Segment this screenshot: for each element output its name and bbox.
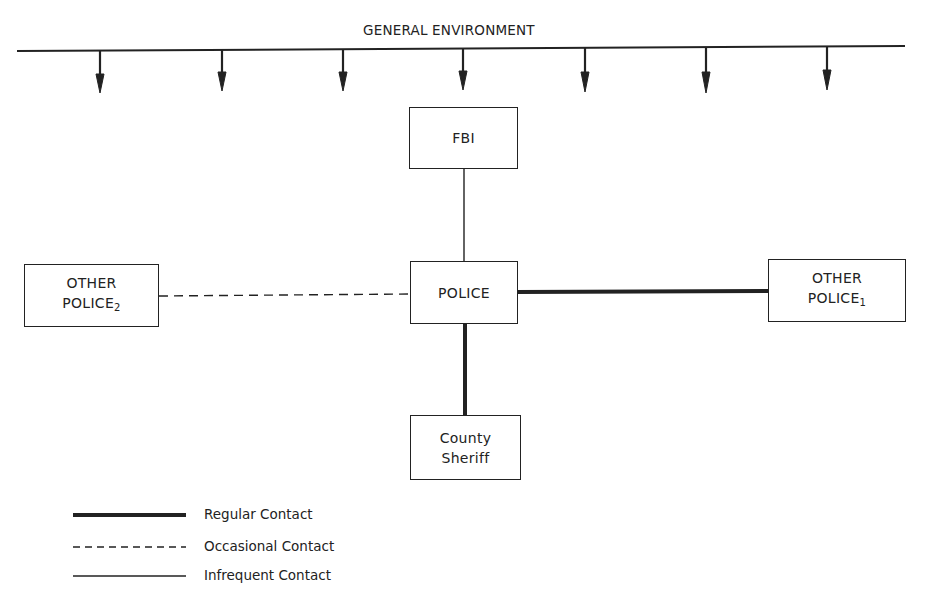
node-county-sheriff: County Sheriff [410,415,521,480]
node-label-line1: OTHER [66,273,116,293]
arrow-down-icon [459,49,467,90]
node-police-label: POLICE [438,283,490,303]
arrow-down-icon [96,51,104,93]
node-fbi: FBI [409,107,518,169]
legend-infrequent-label: Infrequent Contact [204,567,331,583]
arrow-down-icon [823,47,831,90]
node-other-police-1: OTHER POLICE1 [768,259,906,322]
arrow-down-icon [581,48,589,92]
arrow-down-icon [339,50,347,91]
legend-occasional-label: Occasional Contact [204,538,334,554]
node-label-line1: County [440,428,492,448]
diagram-title: GENERAL ENVIRONMENT [363,22,535,38]
node-police: POLICE [410,261,518,324]
node-other-police-2: OTHER POLICE2 [24,264,159,327]
node-label-line2: Sheriff [442,448,490,468]
arrow-down-icon [218,50,226,91]
edge-police-other-police-2 [159,294,410,296]
node-label-line2: POLICE2 [62,293,120,318]
edge-police-other-police-1 [518,291,768,292]
node-fbi-label: FBI [452,128,475,148]
node-label-line2: POLICE1 [808,288,866,313]
environment-line [17,46,905,51]
node-label-line1: OTHER [812,268,862,288]
arrow-down-icon [702,48,710,93]
environment-arrows [96,47,831,93]
legend-regular-label: Regular Contact [204,506,313,522]
